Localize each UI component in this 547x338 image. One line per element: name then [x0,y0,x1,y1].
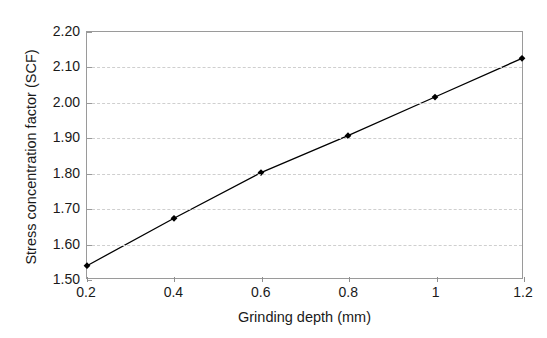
y-axis-tick [87,174,92,175]
x-axis-tick-label: 0.6 [231,284,291,300]
data-series-line [87,32,522,278]
data-point-marker [432,94,439,101]
x-axis-tick-label: 0.8 [318,284,378,300]
y-axis-tick [87,67,92,68]
x-axis-tick [174,277,175,282]
y-axis-tick-label: 1.60 [40,237,80,251]
y-axis-tick [87,32,92,33]
x-axis-tick-label: 0.4 [143,284,203,300]
y-axis-title: Stress concentration factor (SCF) [22,33,40,281]
series-polyline [87,58,522,265]
x-axis-tick [524,277,525,282]
x-axis-tick [349,277,350,282]
y-axis-tick-label: 1.90 [40,130,80,144]
data-point-marker [171,215,178,222]
y-axis-tick-label: 2.00 [40,95,80,109]
gridline-horizontal [87,209,522,210]
y-axis-tick-label: 1.80 [40,166,80,180]
data-point-marker [258,169,265,176]
series-markers [84,55,526,269]
gridline-horizontal [87,174,522,175]
data-point-marker [519,55,526,62]
gridline-horizontal [87,245,522,246]
x-axis-tick-label: 1.2 [493,284,547,300]
gridline-horizontal [87,138,522,139]
x-axis-tick [87,277,88,282]
gridline-horizontal [87,67,522,68]
y-axis-tick [87,245,92,246]
y-axis-tick [87,103,92,104]
gridline-horizontal [87,103,522,104]
y-axis-tick [87,138,92,139]
x-axis-tick-label: 0.2 [56,284,116,300]
x-axis-tick [262,277,263,282]
data-point-marker [84,262,91,269]
y-axis-tick-label: 1.70 [40,201,80,215]
y-axis-tick-label: 2.20 [40,24,80,38]
chart-figure: Stress concentration factor (SCF) 1.501.… [0,0,547,338]
plot-area [86,31,523,279]
y-axis-tick [87,209,92,210]
x-axis-tick [437,277,438,282]
clipped-header-text [6,0,206,6]
y-axis-tick-label: 2.10 [40,59,80,73]
x-axis-title: Grinding depth (mm) [86,308,523,326]
x-axis-tick-label: 1 [406,284,466,300]
